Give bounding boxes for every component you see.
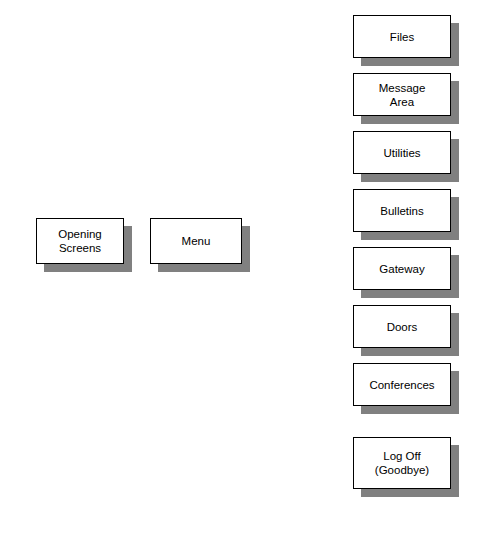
node-label: Files bbox=[390, 30, 414, 44]
node-box[interactable]: Bulletins bbox=[353, 189, 451, 232]
node-label: Gateway bbox=[379, 262, 424, 276]
node-box[interactable]: Opening Screens bbox=[36, 218, 124, 264]
node-label: Doors bbox=[387, 320, 418, 334]
node-label: Menu bbox=[182, 234, 211, 248]
node-box[interactable]: Doors bbox=[353, 305, 451, 348]
node-box[interactable]: Message Area bbox=[353, 73, 451, 116]
node-box[interactable]: Menu bbox=[150, 218, 242, 264]
node-box[interactable]: Gateway bbox=[353, 247, 451, 290]
node-message-area[interactable]: Message Area bbox=[353, 73, 451, 116]
node-doors[interactable]: Doors bbox=[353, 305, 451, 348]
node-label: Message Area bbox=[379, 81, 426, 109]
node-conferences[interactable]: Conferences bbox=[353, 363, 451, 406]
node-box[interactable]: Conferences bbox=[353, 363, 451, 406]
node-label: Opening Screens bbox=[58, 227, 101, 255]
node-label: Utilities bbox=[383, 146, 420, 160]
node-menu[interactable]: Menu bbox=[150, 218, 242, 264]
node-log-off[interactable]: Log Off (Goodbye) bbox=[353, 437, 451, 489]
node-box[interactable]: Log Off (Goodbye) bbox=[353, 437, 451, 489]
node-box[interactable]: Files bbox=[353, 15, 451, 58]
node-opening-screens[interactable]: Opening Screens bbox=[36, 218, 124, 264]
node-label: Bulletins bbox=[380, 204, 423, 218]
node-utilities[interactable]: Utilities bbox=[353, 131, 451, 174]
node-box[interactable]: Utilities bbox=[353, 131, 451, 174]
node-files[interactable]: Files bbox=[353, 15, 451, 58]
node-gateway[interactable]: Gateway bbox=[353, 247, 451, 290]
node-bulletins[interactable]: Bulletins bbox=[353, 189, 451, 232]
diagram-canvas: Opening Screens Menu Files Message Area … bbox=[0, 0, 481, 538]
node-label: Conferences bbox=[369, 378, 434, 392]
node-label: Log Off (Goodbye) bbox=[375, 449, 429, 477]
